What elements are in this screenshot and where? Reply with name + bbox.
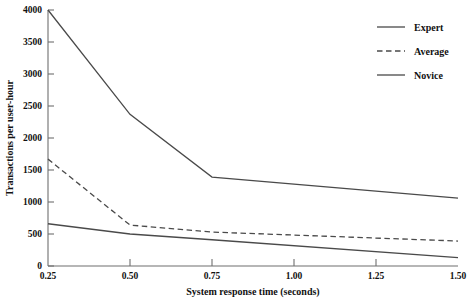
- y-tick-label: 4000: [23, 5, 42, 15]
- series-line-average: [48, 159, 458, 241]
- x-axis-tick-labels: 0.250.500.751.001.251.50: [40, 271, 467, 281]
- series-line-expert: [48, 10, 458, 198]
- y-tick-label: 2500: [23, 101, 42, 111]
- legend-label-expert: Expert: [414, 22, 444, 33]
- y-tick-label: 3500: [23, 37, 42, 47]
- chart-container: 40003500300025002000150010005000 0.250.5…: [0, 0, 469, 300]
- y-tick-label: 3000: [23, 69, 42, 79]
- line-chart: 40003500300025002000150010005000 0.250.5…: [0, 0, 469, 300]
- x-axis-title: System response time (seconds): [186, 286, 319, 298]
- y-tick-label: 1500: [23, 165, 42, 175]
- chart-legend: ExpertAverageNovice: [377, 22, 449, 81]
- y-tick-label: 0: [37, 261, 42, 271]
- x-tick-label: 0.25: [40, 271, 57, 281]
- x-tick-label: 1.00: [286, 271, 303, 281]
- x-tick-label: 0.75: [204, 271, 221, 281]
- data-series-group: [48, 10, 458, 258]
- y-axis-tick-marks: [48, 10, 54, 266]
- y-tick-label: 1000: [23, 197, 42, 207]
- x-axis-tick-marks: [130, 259, 376, 266]
- x-tick-label: 1.50: [450, 271, 467, 281]
- y-tick-label: 500: [28, 229, 43, 239]
- y-tick-label: 2000: [23, 133, 42, 143]
- x-tick-label: 1.25: [368, 271, 385, 281]
- legend-label-novice: Novice: [414, 70, 443, 81]
- y-axis-title: Transactions per user-hour: [4, 79, 15, 195]
- y-axis-tick-labels: 40003500300025002000150010005000: [23, 5, 42, 271]
- series-line-novice: [48, 224, 458, 258]
- legend-label-average: Average: [414, 46, 449, 57]
- x-tick-label: 0.50: [122, 271, 139, 281]
